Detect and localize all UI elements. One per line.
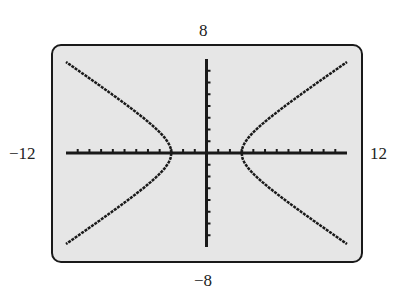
graph-plot <box>53 46 361 261</box>
axes <box>66 59 347 247</box>
ymax-label: 8 <box>199 22 208 39</box>
calculator-screen <box>51 44 363 263</box>
xmin-label: −12 <box>9 145 36 162</box>
ymin-label: −8 <box>194 272 212 289</box>
xmax-label: 12 <box>370 145 387 162</box>
